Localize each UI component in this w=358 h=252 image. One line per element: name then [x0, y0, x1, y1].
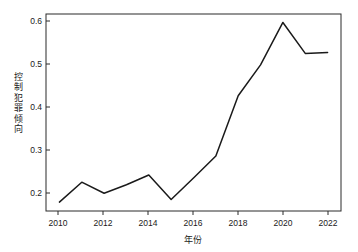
y-axis-title-char: 制 [12, 82, 25, 92]
chart-figure: 0.6 0.5 0.4 0.3 0.2 2010 2012 2014 2016 … [0, 0, 358, 252]
y-axis-title-char: 倾 [12, 114, 25, 124]
x-tick-label: 2010 [49, 218, 68, 228]
x-tick-label: 2012 [94, 218, 113, 228]
y-axis-title-char: 向 [12, 124, 25, 134]
y-axis-title-char: 罪 [12, 103, 25, 113]
x-tick-label: 2014 [139, 218, 158, 228]
chart-background [0, 0, 358, 252]
y-axis-title-char: 犯 [12, 93, 25, 103]
x-axis-title: 年份 [184, 234, 202, 245]
y-axis-title: 控 制 犯 罪 倾 向 [12, 72, 25, 134]
y-tick-label: 0.6 [30, 16, 42, 26]
line-chart-plot: 0.6 0.5 0.4 0.3 0.2 2010 2012 2014 2016 … [0, 0, 358, 252]
y-tick-label: 0.3 [30, 145, 42, 155]
x-tick-label: 2018 [229, 218, 248, 228]
x-tick-label: 2022 [319, 218, 338, 228]
x-tick-label: 2016 [184, 218, 203, 228]
y-tick-label: 0.5 [30, 59, 42, 69]
y-axis-title-char: 控 [12, 72, 25, 82]
x-tick-label: 2020 [274, 218, 293, 228]
y-tick-label: 0.2 [30, 188, 42, 198]
y-tick-label: 0.4 [30, 102, 42, 112]
